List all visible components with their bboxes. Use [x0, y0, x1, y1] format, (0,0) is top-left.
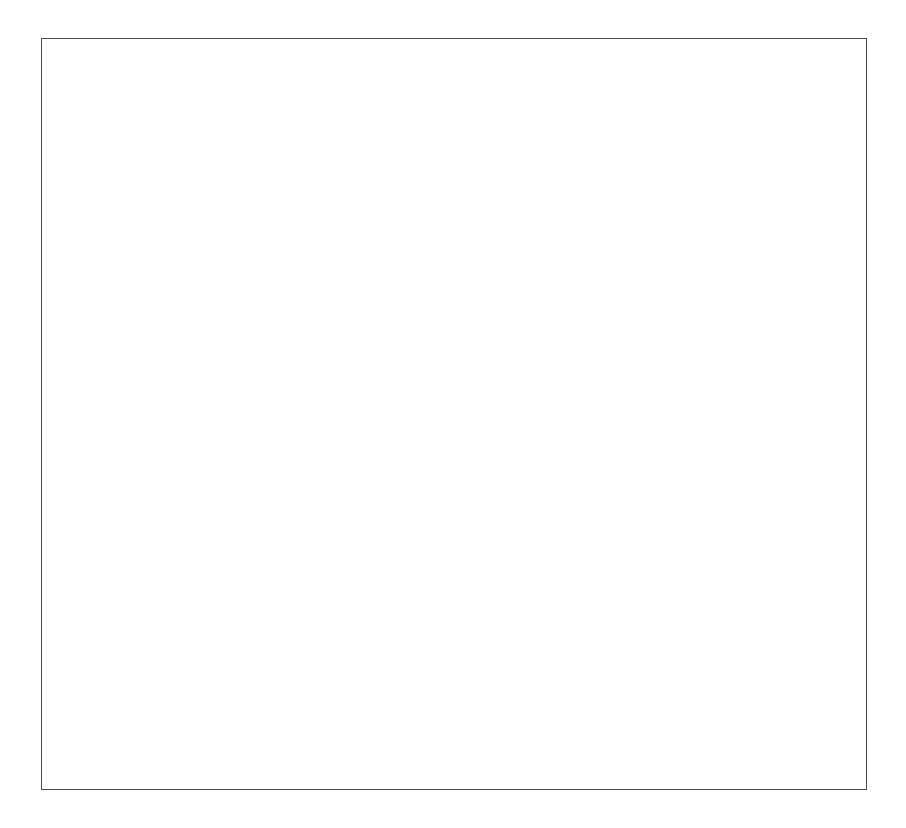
figure-container: 0.511.522.533.540.0010.010.1110 Ht/Hih2/…	[0, 0, 906, 828]
figure-border	[41, 38, 867, 790]
